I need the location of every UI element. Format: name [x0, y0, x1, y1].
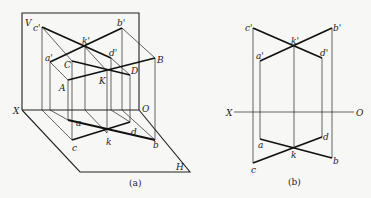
label-C: C	[64, 60, 71, 70]
label-a-b: a	[258, 140, 263, 150]
line-CD-space	[72, 61, 130, 75]
label-O-a: O	[142, 104, 150, 114]
label-V: V	[25, 18, 33, 28]
label-H: H	[175, 162, 184, 172]
label-A: A	[58, 83, 66, 93]
label-d-b: d	[323, 132, 329, 142]
label-b-b: b	[333, 156, 339, 166]
h-projector-d	[111, 110, 130, 122]
label-b-prime-a: b'	[117, 18, 125, 28]
label-d-prime-b: d'	[320, 48, 328, 58]
label-a-a: a	[76, 118, 81, 128]
label-a-prime-b: a'	[256, 51, 264, 61]
label-b-a: b	[153, 140, 159, 150]
label-k-prime-a: k'	[82, 36, 90, 46]
label-b-prime-b: b'	[333, 23, 341, 33]
line-AB-space	[68, 58, 155, 80]
label-k-b: k	[291, 150, 296, 160]
caption-b: (b)	[288, 177, 301, 187]
label-c-a: c	[72, 143, 77, 153]
label-c-prime-b: c'	[245, 23, 253, 33]
label-B: B	[156, 55, 164, 65]
label-O-b: O	[356, 108, 364, 118]
label-X-b: X	[225, 108, 233, 118]
label-c-b: c	[251, 165, 256, 175]
projection-diagram: V c' b' k' a' d' C B K D A X O a c k d b…	[0, 0, 371, 198]
label-k-a: k	[106, 137, 111, 147]
label-d-a: d	[131, 127, 137, 137]
label-k-prime-b: k'	[291, 36, 299, 46]
label-d-prime-a: d'	[109, 48, 117, 58]
label-D: D	[130, 66, 138, 76]
h-projector-a	[50, 110, 68, 120]
panel-b: c' b' k' a' d' X O a d k b c (b)	[225, 23, 364, 187]
label-K: K	[98, 76, 107, 86]
label-a-prime-a: a'	[45, 53, 53, 63]
panel-a: V c' b' k' a' d' C B K D A X O a c k d b…	[12, 13, 190, 188]
label-X-a: X	[12, 106, 20, 116]
label-c-prime-a: c'	[33, 23, 41, 33]
caption-a: (a)	[129, 178, 141, 188]
